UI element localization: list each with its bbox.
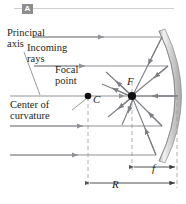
label-principal-axis-line2: axis — [7, 38, 24, 49]
label-focal-point-line1: Focal — [55, 64, 78, 75]
label-radius-symbol: R — [112, 179, 119, 190]
label-center-symbol: C — [93, 94, 100, 105]
focal-point-marker — [128, 92, 136, 100]
label-center-of-curvature-line1: Center of — [10, 99, 49, 110]
label-focal-length-symbol: f — [152, 163, 155, 174]
label-principal-axis-line1: Principal — [7, 27, 45, 38]
label-focal-point-symbol: F — [127, 76, 134, 87]
label-center-of-curvature-line2: curvature — [10, 110, 50, 121]
label-incoming-rays-line2: rays — [27, 53, 45, 64]
optics-figure: A — [0, 0, 186, 204]
label-incoming-rays-line1: Incoming — [27, 42, 67, 53]
center-of-curvature-marker — [85, 93, 92, 100]
label-focal-point-line2: point — [55, 75, 77, 86]
